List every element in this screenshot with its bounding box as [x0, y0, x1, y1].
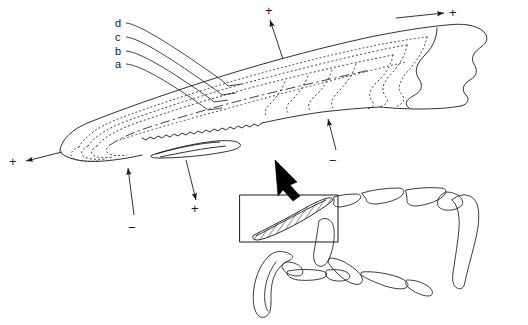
bone-segment-1	[333, 194, 360, 207]
layer-label-a: a	[115, 59, 121, 70]
hatched-claw-sheath	[253, 198, 333, 240]
sign-plus-top-right: +	[449, 6, 457, 19]
annotation-arrows	[26, 13, 444, 215]
main-appendage-outline	[60, 24, 487, 161]
layer-label-d: d	[115, 18, 121, 29]
sign-plus-left: +	[9, 155, 17, 168]
arrow-up-right-lower	[328, 119, 336, 150]
fold-1	[332, 64, 356, 110]
sign-minus-right-lower: −	[329, 154, 337, 167]
layer-label-b: b	[115, 46, 121, 57]
curved-claw-inner	[265, 262, 276, 311]
fold-3	[287, 76, 308, 114]
arrow-right-top-right	[396, 13, 444, 18]
fold-2	[309, 70, 332, 112]
label-leader-lines	[126, 23, 242, 110]
layer-label-c: c	[115, 32, 121, 43]
bone-oblique-4	[406, 280, 433, 296]
bone-oblique-3	[361, 272, 408, 289]
contour-layer-a	[110, 70, 370, 145]
left-tip-contours	[71, 145, 127, 161]
claw-base-link	[282, 262, 303, 276]
arrow-down-bottom-mid	[186, 160, 196, 200]
arrow-up-top-middle	[270, 20, 283, 59]
figure-canvas: d c b a + + + − − +	[0, 0, 528, 325]
spindle-muscle-element	[151, 141, 241, 158]
curved-claw-hook	[253, 252, 292, 318]
figure-illustration	[0, 0, 528, 325]
contour-layer-d	[79, 37, 427, 147]
sign-minus-bottom-left: −	[128, 221, 136, 234]
leader-a	[126, 64, 208, 110]
sign-plus-top-middle: +	[265, 4, 273, 17]
fold-4	[265, 82, 285, 117]
arrow-up-bottom-left	[128, 168, 134, 215]
contour-layer-d-return	[395, 37, 427, 107]
internal-layer-contours	[79, 37, 427, 147]
bone-phalanx-1	[287, 270, 327, 281]
contour-layer-c	[88, 45, 407, 146]
contour-layer-b-return	[367, 55, 393, 109]
bone-phalanx-2	[326, 270, 350, 281]
contour-median-dotted	[120, 62, 406, 140]
arrow-left-outer	[26, 152, 62, 161]
bone-segment-4	[437, 192, 462, 210]
sign-plus-bottom-middle: +	[191, 202, 199, 215]
contour-layer-c-return	[380, 45, 407, 107]
limb-skeleton-inset	[240, 188, 479, 318]
bone-segment-2	[362, 188, 404, 204]
